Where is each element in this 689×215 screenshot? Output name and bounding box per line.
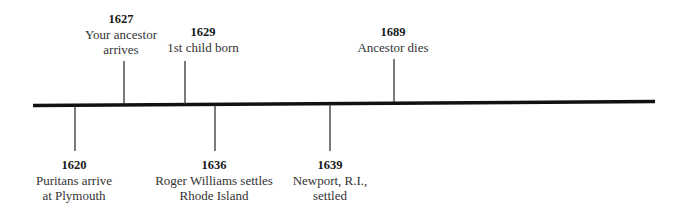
event-desc: Ancestor dies [313,40,473,55]
event-year: 1639 [250,158,410,173]
event-1639: 1639 Newport, R.I., settled [250,158,410,203]
event-year: 1689 [313,25,473,40]
event-desc: settled [250,188,410,203]
timeline-diagram: 1627 Your ancestor arrives 1629 1st chil… [0,0,689,215]
event-desc: 1st child born [123,40,283,55]
timeline-axis [33,102,655,106]
event-1689: 1689 Ancestor dies [313,25,473,55]
event-year: 1629 [123,25,283,40]
event-desc: Newport, R.I., [250,173,410,188]
event-1629: 1629 1st child born [123,25,283,55]
